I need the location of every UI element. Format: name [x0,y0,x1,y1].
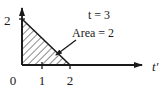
area-annotation-label: Area = 2 [72,27,114,39]
y-axis-value-label: 2 [4,14,11,27]
parameter-label: t = 3 [88,9,110,21]
x-tick-label-1: 1 [36,74,48,87]
x-axis-name-label: t′ [152,60,158,73]
x-tick-label-2: 2 [64,74,76,87]
area-callout-leader-line [56,40,76,55]
figure-container: t = 3 Area = 2 2 0 1 2 t′ [0,0,168,99]
plot-canvas [0,0,168,99]
x-tick-label-0: 0 [7,74,19,87]
